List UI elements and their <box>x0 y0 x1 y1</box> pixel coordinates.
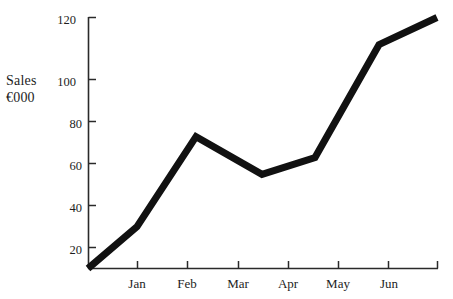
x-axis-ticks <box>138 261 438 269</box>
y-axis-ticks <box>89 18 97 248</box>
plot-area <box>0 0 453 299</box>
series-line-sales <box>88 18 437 269</box>
line-chart: Sales €000 20 40 60 80 100 120 Jan Feb M… <box>0 0 453 299</box>
